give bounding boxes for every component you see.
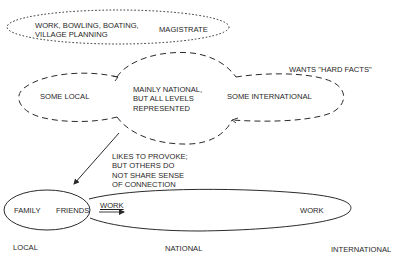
work-arrow-label: WORK [100,201,124,210]
family-label: FAMILY [14,206,40,215]
middle-center-label: MAINLY NATIONAL, BUT ALL LEVELS REPRESEN… [133,85,202,113]
work-end-label: WORK [300,206,324,215]
diagram-canvas [0,0,399,267]
scale-international-label: INTERNATIONAL [331,245,391,254]
friends-label: FRIENDS [56,206,89,215]
scale-national-label: NATIONAL [165,244,202,253]
scale-local-label: LOCAL [13,243,38,252]
middle-note-label: WANTS "HARD FACTS" [289,65,372,74]
top-activities-label: WORK, BOWLING, BOATING, VILLAGE PLANNING [35,21,139,40]
top-role-label: MAGISTRATE [159,25,208,34]
provoke-annotation: LIKES TO PROVOKE; BUT OTHERS DO NOT SHAR… [112,152,188,190]
middle-right-label: SOME INTERNATIONAL [227,92,312,101]
middle-left-label: SOME LOCAL [40,92,89,101]
